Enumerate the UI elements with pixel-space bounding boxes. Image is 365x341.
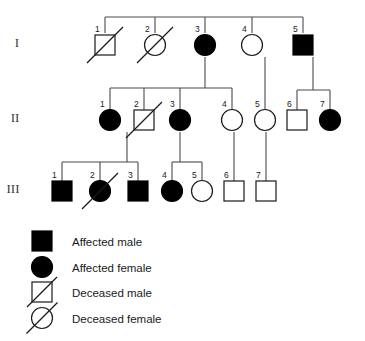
unaffected-male-symbol — [256, 181, 276, 201]
individual-number-iii-1: 1 — [52, 170, 57, 180]
legend-deceased-male: Deceased male — [27, 277, 152, 307]
individual-number-ii-7: 7 — [320, 99, 325, 109]
legend-filled-square-icon — [32, 231, 52, 251]
legend-filled-circle-icon — [32, 257, 53, 278]
individual-number-iii-2: 2 — [90, 170, 95, 180]
unaffected-female-symbol — [222, 110, 243, 131]
individual-number-ii-4: 4 — [222, 99, 227, 109]
individual-number-i-4: 4 — [242, 24, 247, 34]
individual-number-iii-6: 6 — [224, 170, 229, 180]
affected-male-symbol — [128, 181, 148, 201]
legend-deceased-male-label: Deceased male — [72, 287, 152, 299]
affected-female-symbol — [100, 110, 121, 131]
individual-number-iii-3: 3 — [128, 170, 133, 180]
individual-number-iii-5: 5 — [192, 170, 197, 180]
affected-male-symbol — [293, 35, 313, 55]
individual-number-i-2: 2 — [145, 24, 150, 34]
pedigree-chart: 1234512345671234567 IIIIII Affected male… — [0, 0, 365, 341]
individual-number-ii-6: 6 — [287, 99, 292, 109]
legend-affected-male-label: Affected male — [72, 236, 142, 248]
individual-number-i-5: 5 — [293, 24, 298, 34]
individual-number-iii-7: 7 — [256, 170, 261, 180]
pedigree-canvas: 1234512345671234567 IIIIII Affected male… — [0, 0, 365, 341]
generation-label-i: I — [15, 35, 19, 50]
individual-number-i-1: 1 — [95, 24, 100, 34]
individual-number-i-3: 3 — [195, 24, 200, 34]
individual-number-ii-3: 3 — [170, 99, 175, 109]
individual-number-ii-5: 5 — [255, 99, 260, 109]
unaffected-female-symbol — [242, 35, 263, 56]
individual-symbols: 1234512345671234567 — [52, 24, 341, 209]
legend: Affected maleAffected femaleDeceased mal… — [27, 231, 162, 334]
unaffected-male-symbol — [287, 110, 307, 130]
generation-label-ii: II — [11, 110, 20, 125]
legend-affected-male: Affected male — [32, 231, 142, 251]
individual-number-ii-2: 2 — [134, 99, 139, 109]
legend-deceased-female: Deceased female — [27, 303, 162, 334]
generation-labels: IIIIII — [7, 35, 20, 196]
generation-label-iii: III — [7, 181, 20, 196]
affected-male-symbol — [52, 181, 72, 201]
individual-number-iii-4: 4 — [162, 170, 167, 180]
affected-female-symbol — [195, 35, 216, 56]
affected-female-symbol — [170, 110, 191, 131]
individual-number-ii-1: 1 — [100, 99, 105, 109]
legend-deceased-female-label: Deceased female — [72, 313, 162, 325]
affected-female-symbol — [162, 181, 183, 202]
unaffected-male-symbol — [224, 181, 244, 201]
unaffected-female-symbol — [255, 110, 276, 131]
unaffected-female-symbol — [192, 181, 213, 202]
legend-affected-female: Affected female — [32, 257, 152, 278]
legend-affected-female-label: Affected female — [72, 262, 152, 274]
affected-female-symbol — [320, 110, 341, 131]
